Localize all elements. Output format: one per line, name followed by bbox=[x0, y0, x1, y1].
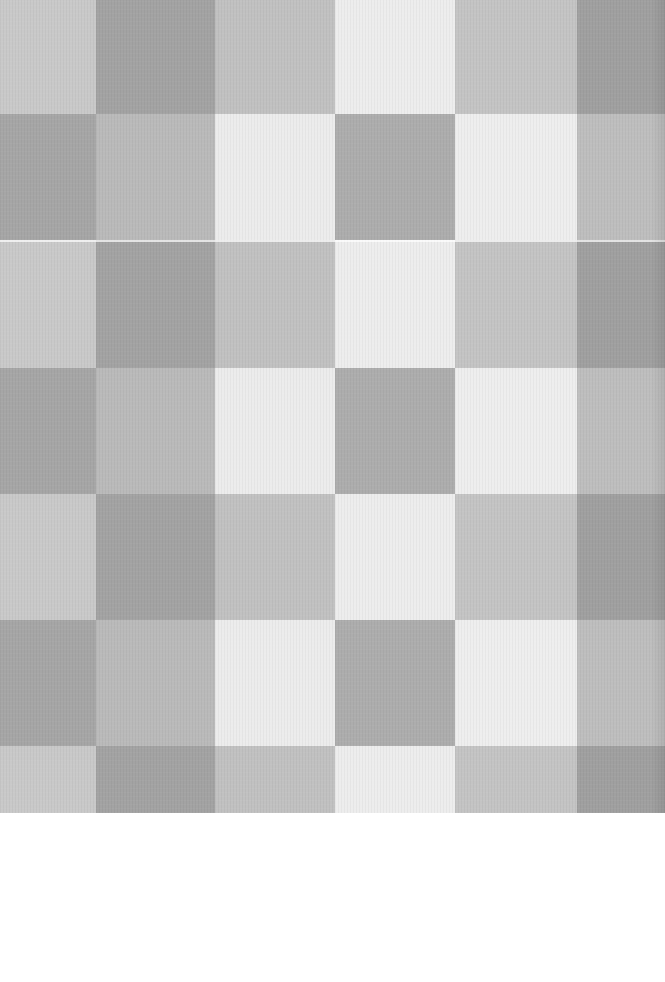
pattern-square bbox=[0, 620, 96, 746]
pattern-square bbox=[215, 494, 335, 620]
pattern-square bbox=[455, 494, 577, 620]
pattern-square bbox=[0, 114, 96, 240]
pattern-square bbox=[0, 368, 96, 494]
pattern-square bbox=[0, 240, 96, 368]
scan-edge-shadow bbox=[651, 0, 665, 813]
pattern-square bbox=[455, 240, 577, 368]
pattern-square bbox=[455, 620, 577, 746]
pattern-square bbox=[215, 620, 335, 746]
pattern-square bbox=[455, 368, 577, 494]
pattern-square bbox=[0, 494, 96, 620]
pattern-square bbox=[455, 746, 577, 813]
fold-seam bbox=[0, 240, 665, 242]
pattern-square bbox=[215, 0, 335, 114]
pattern-square bbox=[0, 0, 96, 114]
pattern-square bbox=[455, 0, 577, 114]
pattern-square bbox=[215, 368, 335, 494]
pattern-square bbox=[335, 114, 455, 240]
pattern-square bbox=[335, 368, 455, 494]
pattern-square bbox=[215, 240, 335, 368]
pattern-square bbox=[96, 620, 215, 746]
pattern-square bbox=[335, 620, 455, 746]
pattern-square bbox=[215, 746, 335, 813]
pattern-square bbox=[96, 114, 215, 240]
pattern-square bbox=[96, 0, 215, 114]
pattern-square bbox=[96, 240, 215, 368]
pattern-square bbox=[0, 746, 96, 813]
pattern-square bbox=[96, 368, 215, 494]
pattern-square bbox=[335, 494, 455, 620]
pattern-square bbox=[96, 746, 215, 813]
pattern-square bbox=[335, 746, 455, 813]
pattern-square bbox=[455, 114, 577, 240]
pattern-square bbox=[335, 0, 455, 114]
checkered-pattern bbox=[0, 0, 665, 813]
pattern-square bbox=[335, 240, 455, 368]
pattern-square bbox=[96, 494, 215, 620]
pattern-square bbox=[215, 114, 335, 240]
